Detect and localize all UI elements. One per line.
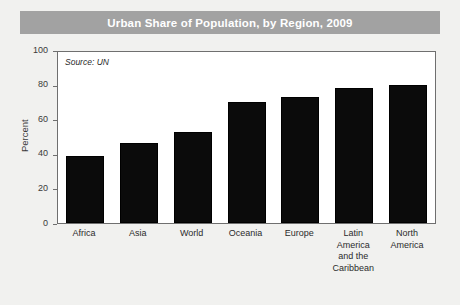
y-tick-mark xyxy=(53,224,57,225)
x-tick-label: LatinAmericaand theCaribbean xyxy=(326,228,380,274)
bar-north-america xyxy=(389,85,427,224)
chart-figure: Urban Share of Population, by Region, 20… xyxy=(0,0,460,305)
y-tick-label: 0 xyxy=(43,218,48,228)
page-title: Urban Share of Population, by Region, 20… xyxy=(107,17,352,29)
y-tick-label: 40 xyxy=(38,148,48,158)
bar-asia xyxy=(120,143,158,223)
y-tick-label: 20 xyxy=(38,183,48,193)
x-axis-labels: AfricaAsiaWorldOceaniaEuropeLatinAmerica… xyxy=(57,228,436,300)
x-tick-label: Asia xyxy=(111,228,165,240)
y-axis-title: Percent xyxy=(19,119,30,152)
chart-title-banner: Urban Share of Population, by Region, 20… xyxy=(20,11,440,34)
plot-area: Source: UN xyxy=(57,51,436,224)
x-tick-label: Europe xyxy=(272,228,326,240)
bar-oceania xyxy=(228,102,266,223)
y-tick-label: 60 xyxy=(38,114,48,124)
y-tick-label: 80 xyxy=(38,79,48,89)
y-axis: Percent 020406080100 xyxy=(0,45,57,230)
x-tick-label: World xyxy=(165,228,219,240)
bar-europe xyxy=(281,97,319,223)
bars-layer xyxy=(58,52,435,223)
bar-latin-america-and-the-caribbean xyxy=(335,88,373,223)
x-tick-label: Oceania xyxy=(219,228,273,240)
x-tick-label: NorthAmerica xyxy=(380,228,434,251)
x-tick-label: Africa xyxy=(57,228,111,240)
bar-africa xyxy=(66,156,104,223)
y-tick-label: 100 xyxy=(33,45,48,55)
bar-world xyxy=(174,132,212,223)
